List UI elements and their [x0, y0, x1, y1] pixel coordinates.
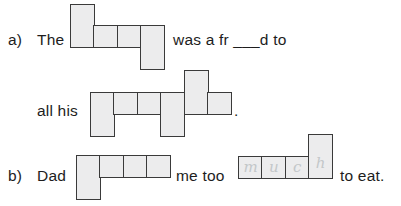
wordshape-cell[interactable]	[137, 92, 162, 115]
wordshape-cell[interactable]	[308, 134, 333, 179]
phrase-a-line1-post: was a fr ___d to	[173, 32, 287, 48]
phrase-b-post: to eat.	[340, 168, 385, 184]
wordshape-cell[interactable]	[207, 92, 232, 115]
wordshape-cell[interactable]	[99, 155, 124, 178]
phrase-b-pre: Dad	[37, 168, 66, 184]
phrase-b-mid: me too	[176, 168, 225, 184]
wordshape-cell[interactable]	[160, 92, 185, 137]
worksheet-canvas: a) The was a fr ___d to all his . b) Dad…	[0, 0, 401, 206]
wordshape-cell[interactable]	[285, 156, 310, 179]
period-a-line2: .	[234, 103, 238, 119]
wordshape-cell[interactable]	[93, 25, 118, 48]
wordshape-cell[interactable]	[238, 156, 263, 179]
wordshape-cell[interactable]	[123, 155, 148, 178]
wordshape-cell[interactable]	[90, 92, 115, 137]
wordshape-b-2[interactable]: m u c h	[238, 134, 333, 180]
item-label-a: a)	[8, 32, 22, 48]
wordshape-cell[interactable]	[76, 155, 101, 200]
phrase-a-line1-pre: The	[37, 32, 64, 48]
wordshape-cell[interactable]	[117, 25, 142, 48]
phrase-a-line2-pre: all his	[37, 103, 78, 119]
wordshape-cell[interactable]	[146, 155, 171, 178]
wordshape-cell[interactable]	[261, 156, 286, 179]
wordshape-cell[interactable]	[140, 25, 165, 70]
item-label-b: b)	[8, 168, 22, 184]
wordshape-cell[interactable]	[184, 70, 209, 115]
wordshape-b-1[interactable]	[76, 155, 171, 205]
wordshape-cell[interactable]	[70, 4, 95, 48]
wordshape-a-1[interactable]	[70, 4, 166, 74]
wordshape-a-2[interactable]	[90, 72, 240, 134]
wordshape-cell[interactable]	[113, 92, 138, 115]
